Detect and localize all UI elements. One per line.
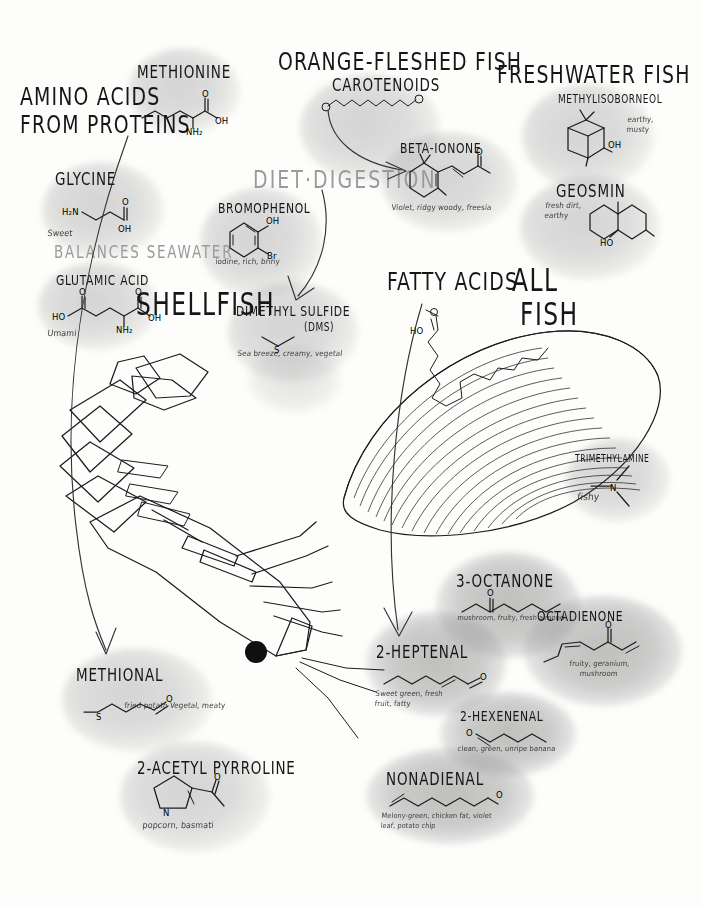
svg-text:OH: OH [608, 140, 621, 150]
descriptor-trimethylamine: fishy [577, 490, 600, 503]
connector-diet-to-dms [276, 186, 346, 314]
freshwater-heading: FRESHWATER FISH [497, 60, 691, 89]
svg-text:O: O [496, 790, 503, 800]
svg-text:O: O [487, 588, 494, 598]
connector-amino-to-methional [40, 126, 140, 656]
svg-text:HO: HO [600, 238, 614, 248]
svg-text:NH₂: NH₂ [186, 127, 203, 137]
descriptor-acetyl-pyrroline: popcorn, basmati [142, 820, 214, 832]
geosmin-structure: HO [580, 196, 670, 252]
poster-canvas: AMINO ACIDS FROM PROTEINS METHIONINE O O… [0, 0, 702, 907]
svg-text:O: O [202, 89, 209, 99]
fatty-acids-heading: FATTY ACIDS [387, 267, 518, 296]
methionine-structure: O OH NH₂ [136, 88, 228, 132]
svg-text:O: O [476, 147, 483, 157]
svg-text:N: N [610, 483, 617, 493]
connector-carotenoid-to-ionone [324, 104, 420, 182]
orange-fleshed-heading: ORANGE-FLESHED FISH [278, 47, 522, 76]
compound-name-methionine: METHIONINE [137, 61, 231, 83]
all-fish-heading-line1: ALL [512, 262, 558, 299]
descriptor-methional: fried potato Vegetal, meaty [124, 700, 226, 710]
svg-text:O: O [466, 728, 473, 738]
descriptor-nonadienal: Melony-green, chicken fat, violet leaf, … [380, 812, 500, 831]
compound-name-methylisoborneol: METHYLISOBORNEOL [558, 92, 662, 105]
svg-text:O: O [214, 772, 221, 782]
svg-text:N: N [163, 808, 170, 818]
svg-text:S: S [96, 712, 102, 722]
connector-fatty-to-heptenal [376, 300, 436, 660]
descriptor-methylisoborneol: earthy, musty [626, 114, 662, 135]
descriptor-bromophenol: iodine, rich, briny [215, 256, 280, 266]
svg-text:OH: OH [215, 116, 228, 126]
compound-name-methional: METHIONAL [76, 664, 163, 686]
descriptor-beta-ionone: Violet, ridgy woody, freesia [391, 202, 492, 212]
svg-text:O: O [480, 672, 487, 682]
descriptor-methional-text: fried potato Vegetal, meaty [124, 700, 226, 710]
descriptor-hexenenal: clean, green, unripe banana [457, 745, 556, 755]
methylisoborneol-structure: OH [556, 106, 636, 164]
descriptor-octadienone: fruity, geranium, mushroom [562, 660, 636, 680]
descriptor-heptenal: Sweet green, fresh fruit, fatty [374, 690, 454, 710]
descriptor-geosmin: fresh dirt, earthy [544, 200, 582, 221]
svg-text:O: O [605, 620, 612, 630]
